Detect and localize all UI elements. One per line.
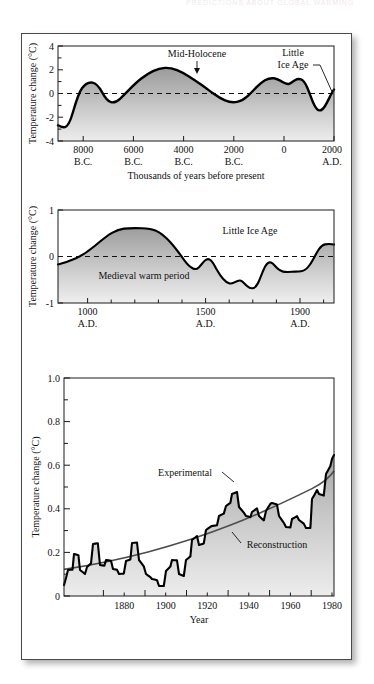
panel3-xtick-0: 1880 <box>114 600 134 611</box>
panel2-ytick-0: 0 <box>49 251 54 262</box>
panel2-ytick-m1: -1 <box>46 298 54 309</box>
figure-frame: 4 2 0 -2 -4 8000 6000 4000 2000 0 2000 B… <box>21 33 352 660</box>
panel1-era-5: A.D. <box>322 156 341 167</box>
little-ice-age-label-line1: Little <box>282 47 304 58</box>
panel2-era-0: A.D. <box>78 318 97 329</box>
panel-instrumental: 1.0 0.8 0.6 0.4 0.2 0 1880 1900 <box>22 364 353 661</box>
panel2-ytick-1: 1 <box>49 205 54 216</box>
medieval-area-fill <box>58 228 334 303</box>
panel1-xtick-3: 2000 <box>224 144 244 155</box>
panel3-yaxis-title: Temperature change (°C) <box>30 436 42 537</box>
panel3-ytick-04: 0.4 <box>48 503 61 514</box>
panel1-ytick-m2: -2 <box>46 112 54 123</box>
panel1-ytick-m4: -4 <box>46 136 54 147</box>
panel3-ytick-02: 0.2 <box>48 547 61 558</box>
little-ice-age-leader-line <box>313 65 333 94</box>
panel3-y-ticks <box>64 378 70 596</box>
panel1-era-3: B.C. <box>225 156 243 167</box>
panel1-era-0: B.C. <box>74 156 92 167</box>
panel-instrumental-svg: 1.0 0.8 0.6 0.4 0.2 0 1880 1900 <box>22 364 353 661</box>
panel3-ytick-00: 0 <box>55 591 60 602</box>
panel2-xtick-1: 1500 <box>196 306 216 317</box>
panel1-xtick-1: 6000 <box>123 144 143 155</box>
panel3-xtick-5: 1980 <box>322 600 342 611</box>
panel3-xtick-1: 1900 <box>156 600 176 611</box>
panel2-yaxis-title: Temperature change (°C) <box>27 206 39 307</box>
panel-medieval: 1 0 -1 1000 1500 1900 A.D. A.D. A.D. <box>22 182 353 357</box>
panel1-ytick-2: 2 <box>49 64 54 75</box>
panel1-xtick-5: 2000 <box>322 144 342 155</box>
panel3-ytick-10: 1.0 <box>48 373 61 384</box>
panel2-era-1: A.D. <box>196 318 215 329</box>
panel3-xtick-4: 1960 <box>280 600 300 611</box>
panel3-xaxis-title: Year <box>190 614 209 625</box>
panel1-xtick-0: 8000 <box>73 144 93 155</box>
panel2-xtick-0: 1000 <box>78 306 98 317</box>
panel1-era-1: B.C. <box>124 156 142 167</box>
mid-holocene-label: Mid-Holocene <box>168 48 227 59</box>
experimental-label: Experimental <box>158 467 212 478</box>
panel1-yaxis-title: Temperature change (°C) <box>27 43 39 144</box>
panel2-era-2: A.D. <box>290 318 309 329</box>
running-head: PREDICTIONS ABOUT GLOBAL WARMING <box>186 0 354 6</box>
panel3-xtick-2: 1920 <box>197 600 217 611</box>
reconstruction-label: Reconstruction <box>247 539 308 550</box>
panel1-ytick-0: 0 <box>49 88 54 99</box>
panel1-xtick-4: 0 <box>282 144 287 155</box>
panel1-xtick-2: 4000 <box>174 144 194 155</box>
panel1-era-2: B.C. <box>174 156 192 167</box>
little-ice-age-label-line2: Ice Age <box>278 59 309 70</box>
panel1-xaxis-title: Thousands of years before present <box>127 170 264 181</box>
mid-holocene-arrow-icon <box>194 61 200 74</box>
holocene-area-fill <box>58 68 334 141</box>
experimental-leader-line <box>222 472 234 482</box>
panel2-xtick-2: 1900 <box>290 306 310 317</box>
medieval-warm-period-label: Medieval warm period <box>98 270 189 281</box>
panel3-ytick-08: 0.8 <box>48 416 61 427</box>
little-ice-age-label: Little Ice Age <box>223 225 279 236</box>
panel1-ytick-4: 4 <box>49 41 54 52</box>
panel3-ytick-06: 0.6 <box>48 460 61 471</box>
panel3-xtick-3: 1940 <box>239 600 259 611</box>
panel-medieval-svg: 1 0 -1 1000 1500 1900 A.D. A.D. A.D. <box>22 182 353 357</box>
